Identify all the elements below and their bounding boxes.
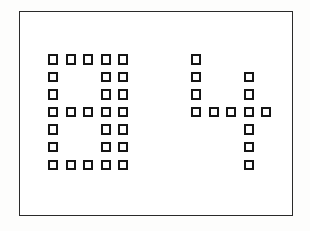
glyph-empty-module — [65, 70, 83, 88]
glyph-square-module — [117, 122, 135, 140]
glyph-row — [190, 105, 278, 123]
glyph-empty-module — [82, 70, 100, 88]
glyph-empty-module — [208, 140, 226, 158]
glyph-square-module — [190, 70, 208, 88]
glyph-row — [47, 105, 135, 123]
glyph-empty-module — [260, 158, 278, 176]
glyph-square-module — [190, 105, 208, 123]
glyph-empty-module — [260, 87, 278, 105]
glyph-row — [190, 140, 278, 158]
glyph-empty-module — [225, 70, 243, 88]
glyph-empty-module — [225, 158, 243, 176]
glyph-empty-module — [260, 140, 278, 158]
image-canvas — [0, 0, 310, 231]
glyph-square-module — [47, 158, 65, 176]
glyph-square-module — [117, 105, 135, 123]
glyph-square-module — [117, 87, 135, 105]
glyph-left — [47, 52, 135, 175]
glyph-square-module — [47, 70, 65, 88]
glyph-row — [47, 158, 135, 176]
glyph-row — [47, 140, 135, 158]
glyph-empty-module — [260, 70, 278, 88]
glyph-square-module — [47, 122, 65, 140]
glyph-square-module — [65, 105, 83, 123]
glyph-empty-module — [82, 140, 100, 158]
glyph-square-module — [225, 105, 243, 123]
glyph-square-module — [117, 140, 135, 158]
glyph-empty-module — [208, 122, 226, 140]
glyph-square-module — [47, 52, 65, 70]
glyph-area — [20, 12, 292, 215]
glyph-empty-module — [225, 87, 243, 105]
glyph-square-module — [117, 158, 135, 176]
glyph-square-module — [100, 140, 118, 158]
glyph-row — [190, 70, 278, 88]
glyph-square-module — [47, 105, 65, 123]
glyph-empty-module — [65, 87, 83, 105]
glyph-empty-module — [208, 87, 226, 105]
glyph-empty-module — [208, 70, 226, 88]
glyph-empty-module — [225, 52, 243, 70]
glyph-row — [190, 158, 278, 176]
glyph-square-module — [243, 122, 261, 140]
glyph-empty-module — [82, 122, 100, 140]
glyph-empty-module — [65, 122, 83, 140]
glyph-empty-module — [190, 158, 208, 176]
glyph-square-module — [47, 140, 65, 158]
outer-frame-rectangle — [19, 11, 293, 216]
glyph-square-module — [243, 70, 261, 88]
glyph-square-module — [243, 158, 261, 176]
glyph-square-module — [82, 158, 100, 176]
glyph-empty-module — [225, 140, 243, 158]
glyph-square-module — [47, 87, 65, 105]
glyph-square-module — [100, 87, 118, 105]
glyph-square-module — [260, 105, 278, 123]
glyph-square-module — [100, 158, 118, 176]
glyph-square-module — [243, 140, 261, 158]
glyph-empty-module — [260, 122, 278, 140]
glyph-empty-module — [260, 52, 278, 70]
glyph-row — [47, 87, 135, 105]
glyph-square-module — [117, 52, 135, 70]
glyph-square-module — [190, 87, 208, 105]
glyph-square-module — [100, 70, 118, 88]
glyph-row — [190, 52, 278, 70]
glyph-empty-module — [225, 122, 243, 140]
glyph-square-module — [65, 158, 83, 176]
glyph-square-module — [208, 105, 226, 123]
glyph-square-module — [82, 52, 100, 70]
glyph-row — [190, 122, 278, 140]
glyph-square-module — [82, 105, 100, 123]
glyph-empty-module — [208, 158, 226, 176]
glyph-square-module — [190, 52, 208, 70]
glyph-empty-module — [65, 140, 83, 158]
glyph-square-module — [243, 105, 261, 123]
glyph-empty-module — [190, 140, 208, 158]
glyph-square-module — [100, 52, 118, 70]
glyph-row — [190, 87, 278, 105]
glyph-row — [47, 70, 135, 88]
glyph-empty-module — [243, 52, 261, 70]
glyph-square-module — [117, 70, 135, 88]
glyph-empty-module — [208, 52, 226, 70]
glyph-empty-module — [82, 87, 100, 105]
glyph-empty-module — [190, 122, 208, 140]
glyph-square-module — [100, 105, 118, 123]
glyph-row — [47, 122, 135, 140]
glyph-square-module — [65, 52, 83, 70]
glyph-square-module — [100, 122, 118, 140]
glyph-right — [190, 52, 278, 175]
glyph-row — [47, 52, 135, 70]
glyph-square-module — [243, 87, 261, 105]
